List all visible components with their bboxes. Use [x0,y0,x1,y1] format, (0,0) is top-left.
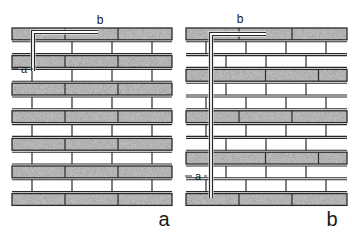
panel-b-caption: b [326,208,337,230]
shaded-brick-course [12,111,172,123]
shaded-brick-course [12,83,172,95]
brick-wall-diagram: b a a b a b [0,0,352,237]
panel-a-caption: a [158,208,170,230]
white-brick-course [12,69,172,81]
shaded-brick-course [12,138,172,150]
white-brick-course [12,125,172,137]
shaded-brick-course [12,56,172,68]
panel-a-side-dimension-label: a [21,63,28,75]
shaded-brick-course [12,166,172,178]
panel-a-wall [11,28,172,205]
white-brick-course [12,42,172,54]
white-brick-course [12,97,172,109]
panel-b-side-dimension-label: a [195,170,202,182]
white-brick-course [12,180,172,192]
panel-a-top-dimension-label: b [97,13,104,27]
shaded-brick-course [12,194,172,206]
panel-b-top-dimension-label: b [237,12,244,26]
panel-b-wall [185,28,347,205]
white-brick-course [12,152,172,164]
